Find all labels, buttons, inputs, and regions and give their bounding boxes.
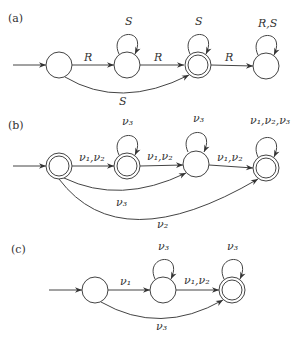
label-r-2-3: R xyxy=(153,51,162,64)
label-v3-1-3: ν₃ xyxy=(116,196,127,209)
edge-v2-1-4 xyxy=(59,179,258,220)
label-v3-loop-2: ν₃ xyxy=(122,115,133,128)
edge-v12-3-4 xyxy=(209,165,253,168)
label-v12-3-4: ν₁,ν₂ xyxy=(217,151,243,164)
label-s-loop-2: S xyxy=(125,15,133,28)
loop-v3-2 xyxy=(117,135,138,155)
label-s-loop-3: S xyxy=(195,15,203,28)
label-v12-2-3: ν₁,ν₂ xyxy=(184,274,210,287)
automata-figure: (a) R S R S R R,S S (b) xyxy=(0,0,300,347)
state-a2 xyxy=(114,52,140,78)
loop-v3-3 xyxy=(222,259,243,279)
panel-label-b: (b) xyxy=(8,119,24,132)
label-s-1-3: S xyxy=(119,95,127,108)
loop-v3-3 xyxy=(186,132,207,152)
label-r-1-2: R xyxy=(83,51,92,64)
state-b4-inner-ring xyxy=(256,158,276,178)
label-v12-2-3: ν₁,ν₂ xyxy=(147,150,173,163)
label-v12-1-2: ν₁,ν₂ xyxy=(79,151,105,164)
panel-label-a: (a) xyxy=(8,12,23,25)
loop-rs-4 xyxy=(256,35,277,55)
state-b2-inner-ring xyxy=(117,156,137,176)
loop-s-2 xyxy=(117,34,138,54)
edge-v12-2-3 xyxy=(140,165,183,166)
label-v1-1-2: ν₁ xyxy=(120,275,131,288)
label-v3-1-3: ν₃ xyxy=(156,320,167,333)
state-a3-inner-ring xyxy=(188,55,208,75)
state-c3-inner-ring xyxy=(222,280,242,300)
panel-label-c: (c) xyxy=(11,243,26,256)
state-c1 xyxy=(82,277,108,303)
loop-v123-4 xyxy=(256,137,277,157)
label-v2-1-4: ν₂ xyxy=(157,218,168,231)
diagram-c: (c) ν₁ ν₃ ν₁,ν₂ ν₃ ν₃ xyxy=(11,240,245,333)
label-r-3-4: R xyxy=(224,51,233,64)
state-b3 xyxy=(183,151,209,177)
diagram-b: (b) ν₁,ν₂ ν₃ ν₁,ν₂ ν₃ ν₁,ν₂ ν₁,ν₂,ν₃ ν₃ … xyxy=(8,112,290,231)
edge-r-3-4 xyxy=(211,65,253,66)
diagram-a: (a) R S R S R R,S S xyxy=(8,12,279,108)
loop-s-3 xyxy=(188,34,209,54)
state-a1 xyxy=(46,52,72,78)
state-c2 xyxy=(150,277,176,303)
state-a4 xyxy=(253,53,279,79)
label-v3-loop-3: ν₃ xyxy=(193,112,204,125)
label-rs-loop-4: R,S xyxy=(257,17,278,30)
label-v123-loop-4: ν₁,ν₂,ν₃ xyxy=(250,114,290,127)
label-v3-loop-2: ν₃ xyxy=(158,240,169,253)
loop-v3-2 xyxy=(153,259,174,279)
state-b1-inner-ring xyxy=(49,156,69,176)
label-v3-loop-3: ν₃ xyxy=(227,240,238,253)
